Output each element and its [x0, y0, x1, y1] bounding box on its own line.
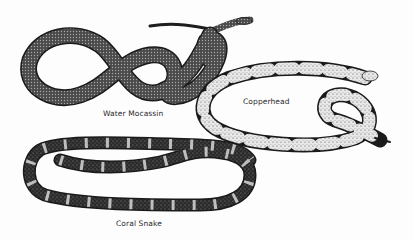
snake-drawings — [0, 0, 413, 240]
coral-snake-drawing — [29, 143, 250, 205]
coral-snake-label: Coral Snake — [116, 219, 162, 228]
snake-illustration: Water Mocassin Copperhead Coral Snake — [0, 0, 413, 240]
water-moccasin-head — [236, 18, 252, 25]
copperhead-head — [362, 71, 378, 81]
copperhead-label: Copperhead — [243, 97, 290, 106]
copperhead-drawing — [203, 68, 390, 145]
water-moccasin-label: Water Mocassin — [103, 109, 163, 118]
